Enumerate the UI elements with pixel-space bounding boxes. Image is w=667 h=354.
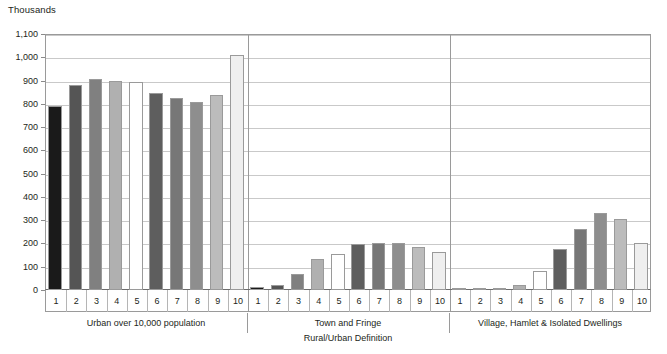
x-axis-tick-label: 8 bbox=[187, 290, 207, 312]
x-axis-tick-label: 3 bbox=[86, 290, 106, 312]
x-axis-tick-label: 3 bbox=[288, 290, 308, 312]
tick-cell-divider bbox=[349, 290, 350, 312]
bar bbox=[109, 81, 122, 290]
tick-cell-divider bbox=[490, 290, 491, 312]
tick-cell-divider bbox=[187, 290, 188, 312]
y-axis-tick-label: 400 bbox=[0, 192, 38, 202]
tick-cell-divider bbox=[511, 290, 512, 312]
x-axis-tick-label: 4 bbox=[107, 290, 127, 312]
tick-cell-divider bbox=[591, 290, 592, 312]
bar bbox=[412, 247, 425, 290]
bar bbox=[129, 82, 142, 290]
y-axis-tick-label: 900 bbox=[0, 76, 38, 86]
tick-cell-divider bbox=[410, 290, 411, 312]
tick-cell-divider bbox=[309, 290, 310, 312]
x-axis-tick-label: 5 bbox=[329, 290, 349, 312]
bars-layer bbox=[45, 34, 651, 290]
y-axis-tick-label: 1,000 bbox=[0, 52, 38, 62]
group-label: Urban over 10,000 population bbox=[45, 316, 247, 330]
chart-page: Thousands 01002003004005006007008009001,… bbox=[0, 0, 667, 354]
y-axis-tick-label: 100 bbox=[0, 262, 38, 272]
bar bbox=[574, 229, 587, 290]
x-axis-tick-label: 1 bbox=[450, 290, 470, 312]
x-axis-tick-label: 7 bbox=[167, 290, 187, 312]
tick-cell-divider bbox=[329, 290, 330, 312]
tick-cell-divider bbox=[531, 290, 532, 312]
tick-cell-divider bbox=[208, 290, 209, 312]
tick-cell-divider bbox=[107, 290, 108, 312]
bar bbox=[89, 79, 102, 290]
bar bbox=[190, 102, 203, 291]
x-axis-tick-label: 6 bbox=[147, 290, 167, 312]
x-axis-tick-label: 2 bbox=[268, 290, 288, 312]
bar bbox=[533, 271, 546, 290]
bar bbox=[311, 259, 324, 290]
y-axis-tick-label: 0 bbox=[0, 285, 38, 295]
x-axis-tick-label: 10 bbox=[632, 290, 652, 312]
x-axis-tick-label: 5 bbox=[127, 290, 147, 312]
x-axis-tick-label: 6 bbox=[349, 290, 369, 312]
tick-cell-divider bbox=[369, 290, 370, 312]
x-axis-tick-label: 2 bbox=[470, 290, 490, 312]
x-axis-tick-label: 9 bbox=[410, 290, 430, 312]
x-axis-tick-label: 7 bbox=[571, 290, 591, 312]
bar bbox=[553, 249, 566, 290]
bar bbox=[149, 93, 162, 290]
x-axis-tick-label: 4 bbox=[511, 290, 531, 312]
tick-cell-divider bbox=[86, 290, 87, 312]
unit-label: Thousands bbox=[8, 4, 56, 15]
y-axis-tick-label: 600 bbox=[0, 145, 38, 155]
y-axis-tick-label: 1,100 bbox=[0, 29, 38, 39]
x-axis-tick-label: 9 bbox=[208, 290, 228, 312]
x-axis-tick-band: 123456789101234567891012345678910 bbox=[45, 290, 651, 312]
x-axis-tick-label: 7 bbox=[369, 290, 389, 312]
tick-cell-divider bbox=[551, 290, 552, 312]
x-axis-tick-label: 2 bbox=[66, 290, 86, 312]
x-axis-tick-label: 10 bbox=[430, 290, 450, 312]
tick-cell-divider bbox=[470, 290, 471, 312]
x-axis-tick-label: 3 bbox=[490, 290, 510, 312]
tick-cell-divider bbox=[288, 290, 289, 312]
tick-cell-divider bbox=[430, 290, 431, 312]
bar bbox=[392, 243, 405, 290]
x-axis-tick-label: 6 bbox=[551, 290, 571, 312]
group-label: Village, Hamlet & Isolated Dwellings bbox=[449, 316, 651, 330]
tick-cell-divider bbox=[167, 290, 168, 312]
bar bbox=[634, 243, 647, 290]
group-label: Town and Fringe bbox=[247, 316, 449, 330]
bar bbox=[614, 219, 627, 290]
tick-cell-divider bbox=[268, 290, 269, 312]
bar bbox=[69, 85, 82, 290]
x-axis-tick-label: 8 bbox=[591, 290, 611, 312]
x-axis-tick-label: 4 bbox=[309, 290, 329, 312]
x-axis-tick-label: 9 bbox=[612, 290, 632, 312]
y-axis-tick-label: 500 bbox=[0, 169, 38, 179]
bar bbox=[594, 213, 607, 290]
bar bbox=[372, 243, 385, 290]
tick-cell-divider bbox=[228, 290, 229, 312]
bar bbox=[331, 254, 344, 290]
x-axis-tick-label: 1 bbox=[248, 290, 268, 312]
y-axis-tick-label: 800 bbox=[0, 99, 38, 109]
bar bbox=[210, 95, 223, 290]
tick-cell-divider bbox=[147, 290, 148, 312]
x-axis-tick-label: 10 bbox=[228, 290, 248, 312]
bar bbox=[48, 106, 61, 290]
bar bbox=[291, 274, 304, 290]
x-axis-tick-label: 5 bbox=[531, 290, 551, 312]
tick-cell-divider bbox=[127, 290, 128, 312]
bar bbox=[351, 244, 364, 290]
x-axis-tick-label: 8 bbox=[389, 290, 409, 312]
tick-cell-divider bbox=[66, 290, 67, 312]
bar bbox=[432, 252, 445, 290]
bar bbox=[230, 55, 243, 290]
x-axis-tick-label: 1 bbox=[46, 290, 66, 312]
tick-cell-divider bbox=[571, 290, 572, 312]
tick-cell-divider bbox=[612, 290, 613, 312]
tick-cell-divider bbox=[389, 290, 390, 312]
bar bbox=[170, 98, 183, 290]
y-axis-tick-label: 700 bbox=[0, 122, 38, 132]
y-axis-tick-label: 300 bbox=[0, 215, 38, 225]
x-axis-title: Rural/Urban Definition bbox=[45, 331, 651, 345]
y-axis-tick-label: 200 bbox=[0, 238, 38, 248]
